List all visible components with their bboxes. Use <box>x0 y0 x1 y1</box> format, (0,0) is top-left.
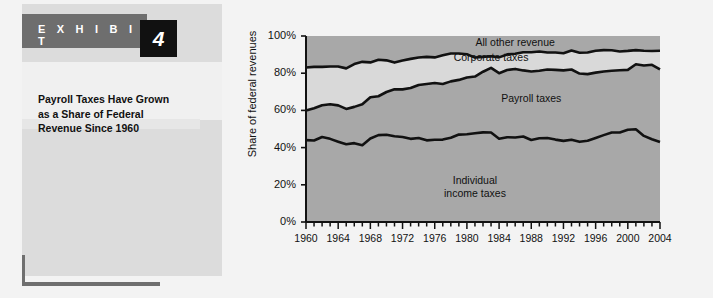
y-tick-label: 20% <box>224 178 296 190</box>
chart-panel: Share of federal revenues 0%20%40%60%80%… <box>224 0 713 290</box>
panel-shadow-bottom <box>22 282 160 286</box>
exhibit-banner-label: E X H I B I T <box>38 23 147 47</box>
series-annotation: Corporate taxes <box>454 51 529 63</box>
exhibit-title-line-3: Revenue Since 1960 <box>38 121 206 136</box>
x-tick-label: 1976 <box>423 232 446 244</box>
y-tick-label: 40% <box>224 141 296 153</box>
x-tick-label: 1968 <box>359 232 382 244</box>
exhibit-number-box: 4 <box>140 20 177 57</box>
exhibit-title-line-1: Payroll Taxes Have Grown <box>38 92 206 107</box>
x-tick-label: 1996 <box>584 232 607 244</box>
x-tick-label: 2000 <box>616 232 639 244</box>
series-annotation: All other revenue <box>475 36 554 48</box>
y-tick-label: 60% <box>224 103 296 115</box>
exhibit-page: E X H I B I T 4 Payroll Taxes Have Grown… <box>0 0 713 298</box>
series-annotation: Payroll taxes <box>501 92 561 104</box>
y-tick-label: 0% <box>224 215 296 227</box>
x-tick-label: 2004 <box>648 232 671 244</box>
exhibit-number: 4 <box>140 20 177 57</box>
series-annotation-line: Individual <box>444 174 506 187</box>
stacked-area-plot <box>224 0 713 290</box>
x-tick-label: 1964 <box>326 232 349 244</box>
exhibit-title-line-2: as a Share of Federal <box>38 107 206 122</box>
panel-shadow-left <box>22 255 25 285</box>
x-tick-label: 1988 <box>520 232 543 244</box>
x-tick-label: 1984 <box>487 232 510 244</box>
x-tick-label: 1960 <box>294 232 317 244</box>
exhibit-banner: E X H I B I T <box>22 14 147 48</box>
exhibit-title: Payroll Taxes Have Grown as a Share of F… <box>38 92 206 136</box>
y-tick-label: 100% <box>224 29 296 41</box>
series-annotation-line: income taxes <box>444 187 506 200</box>
series-annotation: Individualincome taxes <box>444 174 506 200</box>
x-tick-label: 1980 <box>455 232 478 244</box>
x-tick-label: 1992 <box>552 232 575 244</box>
x-tick-label: 1972 <box>391 232 414 244</box>
y-tick-label: 80% <box>224 66 296 78</box>
